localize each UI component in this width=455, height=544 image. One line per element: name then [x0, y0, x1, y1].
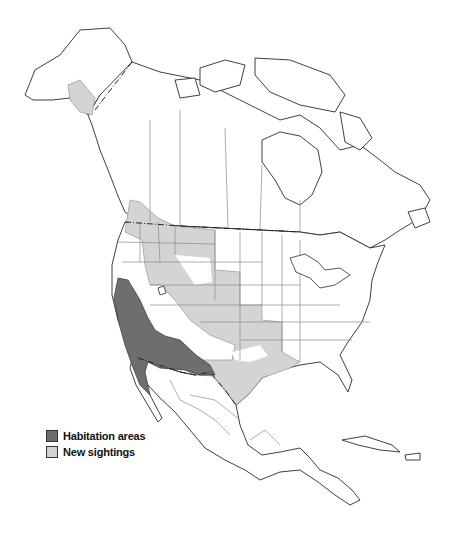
arctic-island [200, 60, 245, 92]
cuba [342, 436, 400, 452]
legend-item-habitation: Habitation areas [46, 428, 145, 443]
caribbean-island [405, 453, 420, 460]
legend-label-sightings: New sightings [63, 446, 135, 458]
baffin-island [340, 112, 372, 150]
great-salt-lake [158, 286, 166, 295]
arctic-island [255, 58, 345, 112]
arctic-island [175, 78, 200, 98]
map-legend: Habitation areas New sightings [46, 428, 145, 460]
legend-label-habitation: Habitation areas [63, 430, 145, 442]
newfoundland [408, 208, 430, 228]
sightings-swatch [46, 446, 58, 458]
legend-item-sightings: New sightings [46, 444, 145, 459]
habitation-swatch [46, 430, 58, 442]
range-map [0, 0, 455, 544]
